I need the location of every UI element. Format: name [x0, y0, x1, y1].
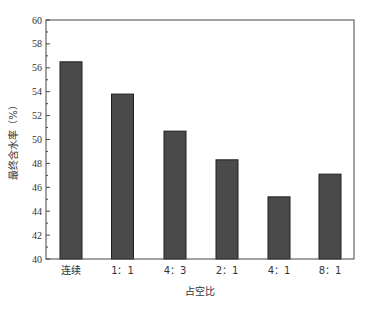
- x-axis: 连续1：14：32：14：18：1: [61, 264, 341, 276]
- x-category-label: 1：1: [111, 265, 134, 276]
- y-axis: 4042444648505254565860: [32, 15, 50, 265]
- bar-chart: 4042444648505254565860 连续1：14：32：14：18：1…: [0, 0, 370, 309]
- y-tick-label: 42: [32, 230, 42, 241]
- bar: [112, 94, 134, 259]
- bar: [216, 160, 238, 259]
- y-tick-label: 60: [32, 15, 42, 26]
- bar: [164, 131, 186, 259]
- y-tick-label: 44: [32, 206, 42, 217]
- x-axis-title: 占空比: [185, 285, 215, 297]
- y-tick-label: 40: [32, 254, 42, 265]
- x-category-label: 4：1: [268, 265, 291, 276]
- bar: [60, 62, 82, 259]
- y-tick-label: 46: [32, 182, 42, 193]
- y-tick-label: 58: [32, 38, 42, 49]
- x-category-label: 连续: [61, 264, 81, 276]
- y-tick-label: 48: [32, 158, 42, 169]
- x-category-label: 4：3: [164, 265, 187, 276]
- x-category-label: 2：1: [216, 265, 239, 276]
- y-tick-label: 50: [32, 134, 42, 145]
- bar: [268, 197, 290, 259]
- x-category-label: 8：1: [319, 265, 342, 276]
- plot-frame: [46, 20, 354, 259]
- y-tick-label: 52: [32, 110, 42, 121]
- bar: [319, 174, 341, 259]
- y-tick-label: 56: [32, 62, 42, 73]
- bars-group: [60, 62, 341, 259]
- y-axis-title: 最终含水率（%）: [7, 100, 19, 180]
- y-tick-label: 54: [32, 86, 42, 97]
